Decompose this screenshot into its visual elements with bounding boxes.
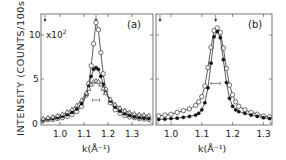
- panel-a-label: (a): [127, 19, 141, 30]
- data-point-filled-circle: [231, 105, 234, 108]
- data-point-filled-circle: [157, 118, 160, 121]
- data-point-open-circle: [94, 20, 98, 24]
- data-point-open-circle: [169, 112, 173, 116]
- panel-b-plot: 1.01.11.21.3: [156, 14, 272, 139]
- data-point-filled-circle: [213, 35, 216, 38]
- data-point-filled-circle: [90, 75, 93, 78]
- x-tick-label: 1.1: [77, 129, 91, 139]
- data-point-filled-circle: [118, 110, 121, 113]
- data-point-filled-circle: [194, 113, 197, 116]
- data-point-filled-circle: [216, 30, 219, 33]
- data-point-filled-circle: [197, 112, 200, 115]
- data-point-filled-circle: [80, 102, 83, 105]
- data-point-open-circle: [156, 114, 160, 118]
- data-point-open-circle: [187, 107, 191, 111]
- data-point-filled-circle: [142, 117, 145, 120]
- data-point-filled-circle: [133, 115, 136, 118]
- data-point-open-circle: [230, 93, 234, 97]
- fit-curve: [159, 28, 270, 117]
- data-point-filled-circle: [256, 115, 259, 118]
- data-point-filled-circle: [182, 116, 185, 119]
- data-point-open-circle: [227, 83, 231, 87]
- data-point-open-circle: [99, 50, 103, 54]
- data-point-filled-circle: [234, 108, 237, 111]
- data-point-filled-circle: [225, 81, 228, 84]
- x-tick-label: 1.3: [125, 129, 139, 139]
- data-point-filled-circle: [222, 58, 225, 61]
- y-tick-10: 10: [29, 30, 41, 40]
- data-point-filled-circle: [147, 117, 150, 120]
- edge-arrowhead-icon: [44, 19, 47, 22]
- chart-figure: INTENSITY (COUNTS/100s) 10 5 0 x102 1.01…: [0, 0, 286, 160]
- data-point-filled-circle: [228, 97, 231, 100]
- x-tick-label: 1.3: [256, 129, 270, 139]
- edge-arrowhead-icon: [159, 19, 162, 22]
- data-point-filled-circle: [262, 116, 265, 119]
- data-point-filled-circle: [75, 107, 78, 110]
- data-point-filled-circle: [203, 101, 206, 104]
- data-point-open-circle: [175, 110, 179, 114]
- x-tick-label: 1.2: [226, 129, 240, 139]
- data-point-open-circle: [200, 94, 204, 98]
- data-point-open-circle: [91, 42, 95, 46]
- data-point-open-circle: [215, 26, 219, 30]
- data-point-filled-circle: [97, 68, 100, 71]
- data-point-filled-circle: [123, 112, 126, 115]
- fit-curve: [159, 31, 270, 119]
- data-point-filled-circle: [268, 117, 271, 120]
- x-tick-label: 1.0: [164, 129, 179, 139]
- fit-curve: [43, 81, 149, 119]
- peak-arrowhead-icon: [214, 19, 217, 22]
- y-tick-5: 5: [33, 74, 39, 84]
- data-point-filled-circle: [128, 114, 131, 117]
- panel-b-label: (b): [248, 19, 262, 30]
- data-point-open-circle: [243, 108, 247, 112]
- data-point-filled-circle: [243, 112, 246, 115]
- x-tick-label: 1.0: [53, 129, 68, 139]
- data-point-filled-circle: [70, 111, 73, 114]
- data-point-filled-circle: [200, 108, 203, 111]
- data-point-filled-circle: [163, 117, 166, 120]
- data-point-open-circle: [233, 100, 237, 104]
- data-point-filled-circle: [237, 110, 240, 113]
- data-point-open-circle: [237, 104, 241, 108]
- y-multiplier: x102: [46, 28, 67, 40]
- data-point-filled-circle: [219, 36, 222, 39]
- data-point-filled-circle: [169, 117, 172, 120]
- data-point-triangle: [70, 107, 74, 111]
- fit-curve: [43, 68, 149, 120]
- data-point-filled-circle: [209, 62, 212, 65]
- data-point-open-circle: [206, 65, 210, 69]
- data-point-triangle: [84, 91, 88, 95]
- data-point-filled-circle: [99, 75, 102, 78]
- y-axis-label: INTENSITY (COUNTS/100s): [15, 0, 26, 136]
- x-tick-label: 1.1: [195, 129, 209, 139]
- data-point-open-circle: [163, 113, 167, 117]
- data-point-filled-circle: [138, 116, 141, 119]
- data-point-filled-circle: [176, 117, 179, 120]
- x-axis-label-b: k(Å⁻¹): [198, 143, 226, 154]
- data-point-open-circle: [89, 64, 93, 68]
- y-tick-0: 0: [32, 119, 38, 129]
- x-tick-label: 1.2: [101, 129, 115, 139]
- data-point-open-circle: [181, 108, 185, 112]
- data-point-open-circle: [96, 28, 100, 32]
- data-point-open-circle: [197, 100, 201, 104]
- x-axis-label-a: k(Å⁻¹): [82, 143, 110, 154]
- data-point-filled-circle: [206, 86, 209, 89]
- data-point-filled-circle: [249, 113, 252, 116]
- data-point-triangle: [118, 106, 122, 110]
- data-point-filled-circle: [188, 115, 191, 118]
